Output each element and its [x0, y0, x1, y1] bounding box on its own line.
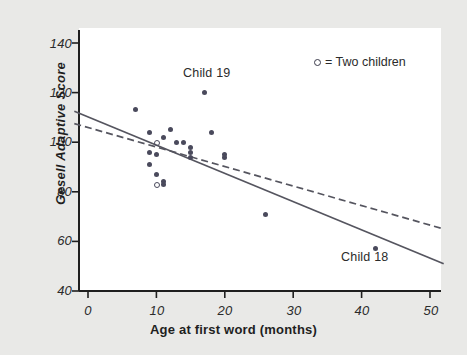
data-point	[181, 140, 186, 145]
legend-label: = Two children	[325, 55, 406, 69]
x-axis-title: Age at first word (months)	[0, 322, 467, 337]
data-point	[263, 212, 268, 217]
data-point	[154, 140, 160, 146]
child-18-annotation: Child 18	[341, 250, 388, 264]
data-point	[168, 127, 173, 132]
y-axis-title: Gesell Adaptive Score	[53, 34, 68, 234]
x-tick-label-0: 0	[71, 303, 105, 318]
data-point	[147, 130, 152, 135]
data-point	[161, 135, 166, 140]
data-point	[202, 90, 207, 95]
data-point	[188, 150, 193, 155]
child-19-annotation: Child 19	[183, 66, 230, 80]
data-point	[154, 182, 160, 188]
data-point	[188, 155, 193, 160]
x-tick-label-10: 10	[140, 303, 174, 318]
y-tick-label-40: 40	[34, 283, 72, 298]
y-tick-label-60: 60	[34, 233, 72, 248]
x-tick-label-30: 30	[277, 303, 311, 318]
open-circle-icon	[314, 59, 321, 66]
data-point	[188, 145, 193, 150]
data-point	[161, 182, 166, 187]
legend: = Two children	[314, 55, 406, 69]
x-tick-label-20: 20	[208, 303, 242, 318]
data-point	[154, 152, 159, 157]
x-tick-label-50: 50	[414, 303, 448, 318]
data-point	[209, 130, 214, 135]
data-point	[147, 150, 152, 155]
scatter-plot-figure: 140 120 100 80 60 40 0 10 20 30 40 50 Ge…	[0, 0, 467, 355]
x-tick-label-40: 40	[345, 303, 379, 318]
data-point	[154, 172, 159, 177]
